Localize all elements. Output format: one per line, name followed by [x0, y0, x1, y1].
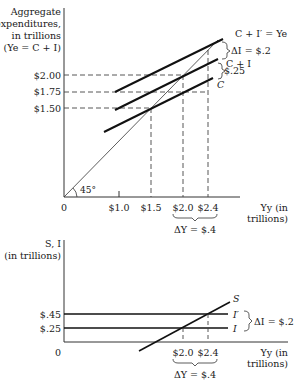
top-ytick-175: $1.75 — [34, 86, 61, 97]
label-s: S — [233, 293, 240, 304]
bottom-xtick-20: $2.0 — [172, 347, 193, 358]
bottom-xlabel-2: trillions) — [247, 358, 288, 369]
bottom-xlabel-1: Yy (in — [259, 347, 288, 358]
brace-delta-i-bottom — [244, 311, 252, 331]
bottom-chart: S, I (in trillions) $.45 $.25 S I′ I ΔI … — [4, 238, 294, 380]
chart-canvas: Aggregate expenditures, in trillions (Ye… — [0, 0, 297, 385]
bottom-xtick-24: $2.4 — [197, 347, 218, 358]
top-chart: Aggregate expenditures, in trillions (Ye… — [0, 6, 288, 235]
label-025: $.25 — [224, 65, 245, 76]
top-origin: 0 — [61, 202, 67, 213]
top-ytick-150: $1.50 — [34, 103, 61, 114]
top-xtick-20: $2.0 — [172, 202, 193, 213]
label-delta-y-top: ΔY = $.4 — [174, 224, 216, 235]
top-ytick-200: $2.00 — [34, 70, 61, 81]
brace-delta-i-top — [222, 42, 230, 59]
top-ylabel-line1: Aggregate — [10, 6, 62, 17]
top-xlabel-2: trillions) — [247, 213, 288, 224]
angle-label: 45° — [80, 185, 96, 195]
label-c: C — [217, 79, 225, 90]
top-ylabel-eq: (Ye = C + I) — [3, 42, 61, 53]
line-c — [104, 78, 213, 132]
label-delta-y-bottom: ΔY = $.4 — [174, 369, 216, 380]
top-xtick-10: $1.0 — [108, 202, 129, 213]
brace-delta-y-top — [173, 214, 217, 221]
label-i: I — [232, 323, 237, 334]
bottom-ytick-25: $.25 — [40, 323, 61, 334]
bottom-ytick-45: $.45 — [40, 309, 61, 320]
line-45deg — [64, 40, 218, 197]
label-delta-i-top: ΔI = $.2 — [231, 45, 271, 56]
line-s — [139, 302, 230, 351]
brace-delta-y-bottom — [173, 359, 217, 366]
label-c-plus-i-prime: C + I′ = Ye — [235, 28, 288, 39]
top-xtick-15: $1.5 — [140, 202, 161, 213]
top-ylabel-line3: in trillions — [12, 30, 62, 41]
top-xlabel-1: Yy (in — [259, 202, 288, 213]
label-delta-i-bottom: ΔI = $.2 — [254, 316, 294, 327]
bottom-origin: 0 — [55, 347, 61, 358]
bottom-ylabel-2: (in trillions) — [4, 250, 61, 261]
top-ylabel-line2: expenditures, — [0, 18, 61, 29]
bottom-ylabel-1: S, I — [45, 238, 61, 249]
angle-arc — [73, 188, 77, 197]
label-i-prime: I′ — [232, 309, 240, 320]
top-xtick-24: $2.4 — [197, 202, 218, 213]
